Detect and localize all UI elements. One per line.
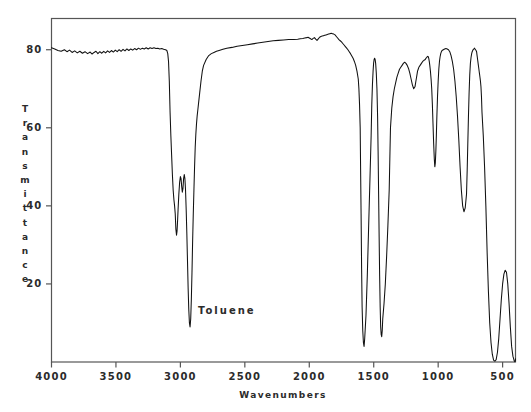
ir-spectrum-figure: 4000350030002500200015001000500 20406080… [0,0,531,412]
x-tick-label: 500 [490,371,514,382]
sample-annotation: Toluene [198,305,256,316]
x-tick-label: 1000 [422,371,455,382]
y-axis-label-char: n [22,246,28,256]
y-axis-label-char: t [23,203,28,213]
y-tick-label: 60 [26,122,42,133]
y-tick-label: 20 [26,278,42,289]
y-tick-label: 40 [26,200,42,211]
y-axis-label-char: c [22,260,27,270]
y-axis-label-char: e [22,274,28,284]
y-axis-label-char: a [22,132,28,142]
x-tick-label: 2500 [229,371,262,382]
y-axis-label-char: n [22,147,28,157]
y-tick-label: 80 [26,44,42,55]
x-axis-label: Wavenumbers [239,390,327,400]
y-axis-label-char: s [22,161,27,171]
y-axis-label-char: m [20,175,29,185]
x-tick-label: 3000 [164,371,197,382]
spectrum-canvas: 4000350030002500200015001000500 20406080… [0,0,531,412]
x-tick-label: 3500 [100,371,133,382]
x-tick-label: 4000 [35,371,68,382]
y-axis-label-char: t [23,218,28,228]
figure-background [0,0,531,412]
y-axis-label-char: i [23,189,26,199]
x-tick-label: 1500 [357,371,390,382]
x-tick-label: 2000 [293,371,326,382]
y-axis-label-char: r [23,118,28,128]
y-axis-label-char: a [22,232,28,242]
y-axis-label-char: T [22,104,29,114]
